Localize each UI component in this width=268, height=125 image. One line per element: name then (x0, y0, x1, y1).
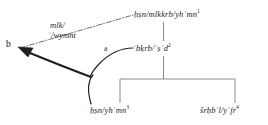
arrow-target-label-b: b (6, 39, 11, 49)
node-bottom-left-text: ḥṣn/yhʿmn (90, 105, 126, 115)
edge-label-line1: mlk/ (50, 21, 65, 30)
node-top-note: 1 (197, 8, 200, 14)
edge-label-line2: ʾ/wymnt (48, 31, 76, 40)
stemma-diagram: ḥṣn/mlkkrb/yhʿmn1 mlk/ ʾ/wymnt ʾbḳrb/ʾṣʿ… (0, 0, 268, 125)
merged-arrow-shaft (30, 53, 91, 77)
curve-edge-a (90, 48, 133, 77)
node-middle: ʾbḳrb/ʾṣʿd2 (133, 43, 171, 53)
node-bottom-right: šrḥbʾl/yʿfr4 (200, 105, 239, 115)
node-middle-text: ʾbḳrb/ʾṣʿd (133, 43, 168, 53)
node-bottom-left: ḥṣn/yhʿmn3 (90, 105, 129, 115)
curve-edge-bottom-left (88, 75, 93, 104)
curve-label-a: a (104, 44, 107, 53)
node-middle-note: 2 (168, 42, 171, 48)
node-bottom-right-note: 4 (236, 104, 239, 110)
node-top-ancestor: ḥṣn/mlkkrb/yhʿmn1 (134, 9, 200, 19)
node-bottom-left-note: 3 (126, 104, 129, 110)
node-bottom-right-text: šrḥbʾl/yʿfr (200, 105, 236, 115)
node-top-text: ḥṣn/mlkkrb/yhʿmn (134, 9, 197, 19)
arrowhead-to-b (18, 47, 33, 57)
dashdot-edge-b-to-top (20, 15, 133, 48)
